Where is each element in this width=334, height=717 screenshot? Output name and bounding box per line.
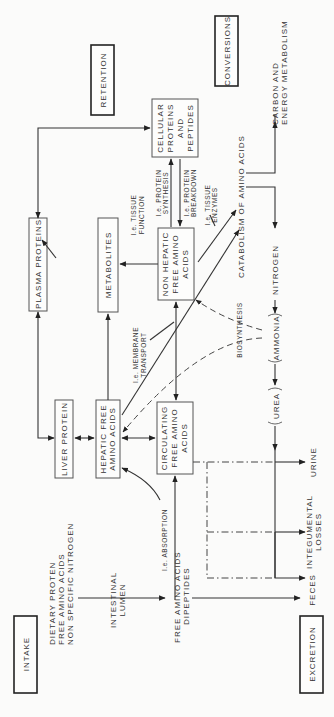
section-conversions-label: CONVERSIONS — [223, 16, 232, 86]
catabolism-label: CATABOLISM OF AMINO ACIDS — [237, 135, 246, 278]
metabolites-label: METABOLITES — [104, 232, 113, 298]
membrane-transport-annotation-1: I.e. MEMBRANE — [132, 327, 139, 383]
membrane-transport-annotation-2: TRANSPORT — [140, 332, 147, 377]
circulating-label-1: CIRCULATING — [160, 406, 169, 471]
section-intake: INTAKE — [14, 616, 37, 693]
arrow-to-nitrogen — [246, 187, 275, 228]
carbon-label: CARBON AND — [271, 62, 280, 125]
intestinal-label: INTESTINAL — [109, 572, 118, 628]
dash-biosynthesis-nonhepatic — [196, 300, 262, 330]
protein-synthesis-annotation-1: I.e. PROTEIN — [155, 170, 162, 217]
section-intake-label: INTAKE — [22, 637, 31, 671]
protein-synthesis-annotation-2: SYNTHESIS — [162, 172, 169, 214]
cellular-label-2: PROTEINS — [166, 104, 175, 153]
membrane-transport-pointer — [150, 322, 174, 340]
circulating-label-3: ACIDS — [180, 423, 189, 452]
arrow-plasma-liver — [38, 312, 54, 438]
tissue-enzymes-annotation-1: I.e. TISSUE — [204, 185, 211, 226]
free-amino-acids-absorbed-label: FREE AMINO ACIDS — [173, 551, 182, 643]
absorption-annotation: I.e. ABSORPTION — [161, 509, 168, 571]
dipeptides-label: DIPEPTIDES — [182, 567, 191, 625]
absorbed-products: FREE AMINO ACIDS DIPEPTIDES — [173, 551, 191, 643]
cellular-label-3: AND — [176, 118, 185, 138]
ammonia-label: AMMONIA — [272, 315, 281, 360]
non-specific-nitrogen-label: NON SPECIFIC NITROGEN — [66, 523, 75, 645]
circulating-label-2: FREE AMINO — [170, 408, 179, 467]
tissue-enzymes-annotation-2: ENZYMES — [211, 187, 218, 223]
nitrogen-label: NITROGEN — [271, 245, 280, 295]
node-liver-protein: LIVER PROTEIN — [55, 400, 73, 478]
dietary-protein-label: DIETARY PROTEN — [48, 562, 57, 645]
integumental-label: INTEGUMENTAL — [305, 495, 314, 569]
liver-protein-label: LIVER PROTEIN — [60, 402, 69, 476]
cellular-label-1: CELLULAR — [156, 103, 165, 152]
plasma-proteins-label: PLASMA PROTEINS — [34, 219, 43, 309]
free-amino-acids-label: FREE AMINO ACIDS — [57, 553, 66, 645]
diagram-canvas: INTAKE RETENTION CONVERSIONS EXCRETION D… — [0, 0, 334, 717]
hepatic-free-label-1: HEPATIC FREE — [99, 404, 108, 473]
dashdot-circ-feces — [207, 462, 275, 578]
protein-breakdown-annotation-2: BREAKDOWN — [190, 169, 197, 217]
section-excretion-label: EXCRETION — [308, 626, 317, 682]
node-cellular-proteins: CELLULAR PROTEINS AND PEPTIDES — [152, 99, 198, 157]
losses-label: LOSSES — [314, 513, 323, 551]
urine-label: URINE — [309, 447, 318, 477]
node-hepatic-free-amino-acids: HEPATIC FREE AMINO ACIDS — [96, 400, 120, 478]
protein-breakdown-annotation-1: I.e. PROTEIN — [183, 170, 190, 217]
node-non-hepatic-free-amino-acids: NON HEPATIC FREE AMINO ACIDS — [158, 228, 194, 300]
lumen-label: LUMEN — [118, 583, 127, 616]
cellular-label-4: PEPTIDES — [186, 104, 195, 152]
arrow-absorption-hepatic — [122, 468, 160, 500]
section-retention: RETENTION — [91, 45, 114, 115]
urea-label: UREA — [272, 393, 281, 419]
tissue-function-annotation-1: I.e. TISSUE — [130, 195, 137, 236]
energy-metabolism-label: ENERGY METABOLISM — [280, 20, 289, 125]
arrow-trunk-to-feces — [275, 532, 305, 578]
intake-sources: DIETARY PROTEN FREE AMINO ACIDS NON SPEC… — [48, 523, 75, 645]
urea-paren-top — [268, 388, 282, 390]
section-conversions: CONVERSIONS — [215, 16, 238, 86]
node-circulating-free-amino-acids: CIRCULATING FREE AMINO ACIDS — [157, 402, 193, 474]
non-hepatic-label-3: ACIDS — [181, 249, 190, 278]
tissue-function-annotation-2: FUNCTION — [138, 196, 145, 234]
biosynthesis-label: BIOSYNTHESIS — [236, 302, 243, 357]
intestinal-lumen: INTESTINAL LUMEN — [109, 572, 127, 628]
amino-acid-metabolism-diagram: INTAKE RETENTION CONVERSIONS EXCRETION D… — [0, 0, 334, 717]
section-excretion: EXCRETION — [300, 616, 323, 693]
non-hepatic-label-1: NON HEPATIC — [161, 232, 170, 296]
section-retention-label: RETENTION — [99, 52, 108, 107]
feces-label: FECES — [308, 574, 317, 606]
hepatic-free-label-2: AMINO ACIDS — [108, 407, 117, 470]
node-plasma-proteins: PLASMA PROTEINS — [29, 218, 47, 311]
non-hepatic-label-2: FREE AMINO — [171, 234, 180, 293]
urea-paren-bottom — [268, 422, 282, 424]
node-metabolites: METABOLITES — [98, 218, 118, 312]
